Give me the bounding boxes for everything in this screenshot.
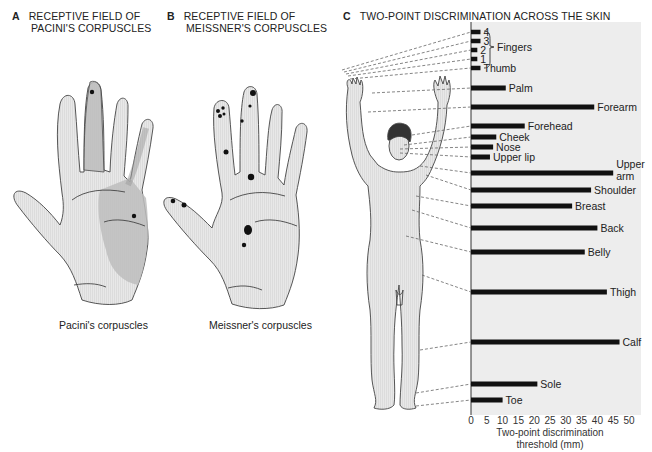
bar-toe xyxy=(471,398,503,403)
x-tick-label: 45 xyxy=(608,415,620,426)
chart-x-ticks: 05101520253035404550 xyxy=(468,415,635,426)
bar-nose xyxy=(471,145,493,150)
x-tick-label: 20 xyxy=(529,415,541,426)
bar-label: Belly xyxy=(588,246,612,258)
bar-label: Back xyxy=(600,222,624,234)
bar-label: Toe xyxy=(506,394,523,406)
x-tick-label: 30 xyxy=(560,415,572,426)
bar-label: Sole xyxy=(540,378,561,390)
bar-upper-arm xyxy=(471,171,613,176)
x-tick-label: 15 xyxy=(513,415,525,426)
bar-label: Upper lip xyxy=(493,151,535,163)
x-axis-title-line1: Two-point discrimination xyxy=(496,427,603,438)
bar-forehead xyxy=(471,124,525,129)
bar-label: Shoulder xyxy=(594,184,637,196)
hand-pacini-illustration xyxy=(14,81,153,304)
bar-label: Calf xyxy=(623,336,642,348)
bar-label: Thigh xyxy=(610,286,636,298)
bar-shoulder xyxy=(471,188,591,193)
bar-palm xyxy=(471,86,506,91)
x-tick-label: 5 xyxy=(484,415,490,426)
pacini-dot-palm xyxy=(132,214,136,218)
x-tick-label: 35 xyxy=(576,415,588,426)
chart-plot-area xyxy=(471,22,641,415)
figure-canvas: 4321ThumbPalmForearmForeheadCheekNoseUpp… xyxy=(0,0,652,452)
x-axis-title-line2: threshold (mm) xyxy=(516,439,583,450)
bar-label: Forehead xyxy=(528,120,573,132)
bar-forearm xyxy=(471,105,594,110)
bar-belly xyxy=(471,250,585,255)
fingers-group-label: Fingers xyxy=(497,41,532,53)
bar-breast xyxy=(471,204,572,209)
bar-cheek xyxy=(471,135,496,140)
x-tick-label: 10 xyxy=(497,415,509,426)
bar-label: Breast xyxy=(575,200,605,212)
bar-label: Palm xyxy=(509,82,533,94)
bar-2 xyxy=(471,48,477,53)
bar-4 xyxy=(471,30,480,35)
bar-sole xyxy=(471,382,537,387)
bar-label: Forearm xyxy=(597,101,637,113)
bar-upper-lip xyxy=(471,155,490,160)
bar-back xyxy=(471,226,597,231)
x-tick-label: 40 xyxy=(592,415,604,426)
bar-thigh xyxy=(471,290,607,295)
bar-thumb xyxy=(471,66,480,71)
bar-3 xyxy=(471,39,480,44)
x-tick-label: 50 xyxy=(623,415,635,426)
x-tick-label: 0 xyxy=(468,415,474,426)
pacini-dot-finger xyxy=(90,90,94,94)
x-tick-label: 25 xyxy=(544,415,556,426)
bar-calf xyxy=(471,340,620,345)
bar-1 xyxy=(471,57,477,62)
hand-meissner-illustration xyxy=(164,87,307,309)
bar-label: Thumb xyxy=(483,62,516,74)
human-body-figure xyxy=(346,76,450,409)
